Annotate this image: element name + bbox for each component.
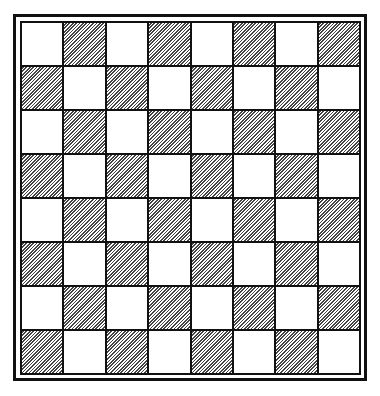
dark-square[interactable] xyxy=(234,199,274,241)
light-square[interactable] xyxy=(22,287,62,329)
dark-square[interactable] xyxy=(234,287,274,329)
light-square[interactable] xyxy=(107,23,147,65)
dark-square[interactable] xyxy=(276,331,316,373)
light-square[interactable] xyxy=(149,331,189,373)
light-square[interactable] xyxy=(64,155,104,197)
light-square[interactable] xyxy=(22,23,62,65)
light-square[interactable] xyxy=(192,287,232,329)
light-square[interactable] xyxy=(319,67,359,109)
light-square[interactable] xyxy=(149,67,189,109)
light-square[interactable] xyxy=(276,111,316,153)
dark-square[interactable] xyxy=(64,23,104,65)
dark-square[interactable] xyxy=(234,111,274,153)
dark-square[interactable] xyxy=(149,111,189,153)
light-square[interactable] xyxy=(234,155,274,197)
dark-square[interactable] xyxy=(319,199,359,241)
light-square[interactable] xyxy=(22,199,62,241)
light-square[interactable] xyxy=(276,199,316,241)
dark-square[interactable] xyxy=(319,111,359,153)
light-square[interactable] xyxy=(107,111,147,153)
dark-square[interactable] xyxy=(149,199,189,241)
light-square[interactable] xyxy=(107,199,147,241)
light-square[interactable] xyxy=(22,111,62,153)
dark-square[interactable] xyxy=(22,331,62,373)
dark-square[interactable] xyxy=(22,67,62,109)
light-square[interactable] xyxy=(192,111,232,153)
dark-square[interactable] xyxy=(319,23,359,65)
dark-square[interactable] xyxy=(192,155,232,197)
light-square[interactable] xyxy=(319,155,359,197)
light-square[interactable] xyxy=(64,243,104,285)
light-square[interactable] xyxy=(234,331,274,373)
dark-square[interactable] xyxy=(149,23,189,65)
dark-square[interactable] xyxy=(22,243,62,285)
dark-square[interactable] xyxy=(107,243,147,285)
dark-square[interactable] xyxy=(64,111,104,153)
light-square[interactable] xyxy=(149,155,189,197)
dark-square[interactable] xyxy=(319,287,359,329)
light-square[interactable] xyxy=(64,67,104,109)
light-square[interactable] xyxy=(319,331,359,373)
dark-square[interactable] xyxy=(64,287,104,329)
dark-square[interactable] xyxy=(107,331,147,373)
light-square[interactable] xyxy=(319,243,359,285)
dark-square[interactable] xyxy=(107,67,147,109)
dark-square[interactable] xyxy=(276,155,316,197)
dark-square[interactable] xyxy=(192,67,232,109)
chess-board xyxy=(20,21,361,375)
dark-square[interactable] xyxy=(22,155,62,197)
light-square[interactable] xyxy=(276,23,316,65)
light-square[interactable] xyxy=(64,331,104,373)
dark-square[interactable] xyxy=(276,67,316,109)
light-square[interactable] xyxy=(234,243,274,285)
light-square[interactable] xyxy=(234,67,274,109)
dark-square[interactable] xyxy=(64,199,104,241)
light-square[interactable] xyxy=(107,287,147,329)
light-square[interactable] xyxy=(192,23,232,65)
dark-square[interactable] xyxy=(192,243,232,285)
dark-square[interactable] xyxy=(107,155,147,197)
dark-square[interactable] xyxy=(149,287,189,329)
dark-square[interactable] xyxy=(276,243,316,285)
light-square[interactable] xyxy=(276,287,316,329)
light-square[interactable] xyxy=(149,243,189,285)
dark-square[interactable] xyxy=(234,23,274,65)
light-square[interactable] xyxy=(192,199,232,241)
dark-square[interactable] xyxy=(192,331,232,373)
